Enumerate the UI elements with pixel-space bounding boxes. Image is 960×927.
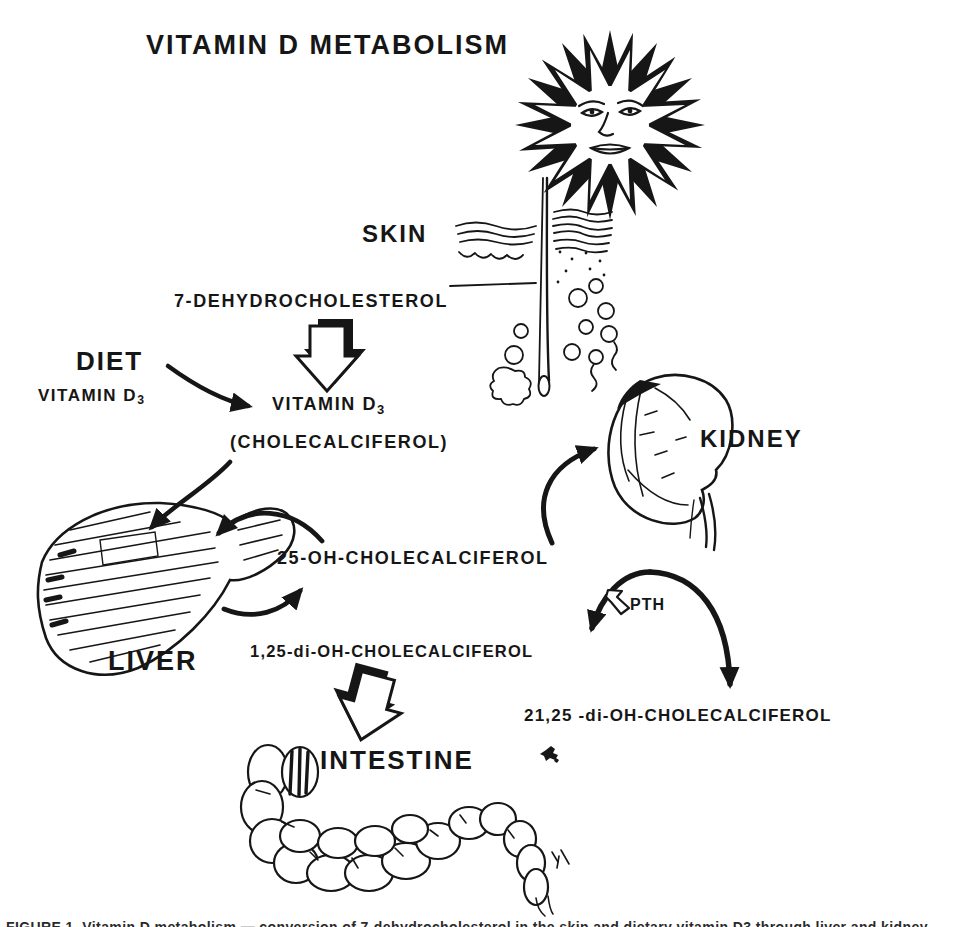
intestine-label: INTESTINE xyxy=(320,745,474,776)
arrow-diet-to-d3 xyxy=(168,366,248,406)
arrow-25oh-to-kidney xyxy=(544,449,594,543)
vitamin-d3-base: VITAMIN D xyxy=(272,394,377,414)
arrow-kidney-to-2125 xyxy=(650,572,730,684)
pth-label: PTH xyxy=(630,596,665,614)
precursor-label: 7-DEHYDROCHOLESTEROL xyxy=(174,291,448,312)
ink-smudge xyxy=(540,746,559,763)
diet-vitamin-d3-subscript: 3 xyxy=(137,393,145,407)
alt-metabolite-label: 21,25 -di-OH-CHOLECALCIFEROL xyxy=(524,706,832,726)
pth-arrow-icon xyxy=(606,590,629,614)
conversion-arrow-125-to-intestine xyxy=(322,659,410,748)
kidney-icon xyxy=(608,375,732,550)
calcidiol-label: 25-OH-CHOLECALCIFEROL xyxy=(277,548,549,569)
conversion-arrow-skin-to-d3 xyxy=(296,319,366,391)
sun-icon xyxy=(495,10,725,240)
clipped-caption: FIGURE 1. Vitamin D metabolism — convers… xyxy=(6,917,956,927)
vitamin-d-metabolism-figure: VITAMIN D METABOLISM SKIN 7-DEHYDROCHOLE… xyxy=(0,0,960,927)
cholecalciferol-label: (CHOLECALCIFEROL) xyxy=(230,432,448,453)
vitamin-d3-label: VITAMIN D3 xyxy=(272,394,386,417)
vitamin-d3-subscript: 3 xyxy=(377,402,386,417)
diagram-artwork xyxy=(0,0,960,927)
figure-title: VITAMIN D METABOLISM xyxy=(146,30,509,61)
arrow-liver-to-25oh xyxy=(224,591,300,614)
diet-label: DIET xyxy=(76,346,143,377)
liver-label: LIVER xyxy=(108,646,198,677)
skin-icon xyxy=(450,178,617,405)
diet-vitamin-d3-label: VITAMIN D3 xyxy=(38,386,145,407)
diet-vitamin-d3-base: VITAMIN D xyxy=(38,386,137,405)
calcitriol-label: 1,25-di-OH-CHOLECALCIFEROL xyxy=(250,642,533,661)
skin-label: SKIN xyxy=(362,220,427,248)
kidney-label: KIDNEY xyxy=(700,425,803,453)
